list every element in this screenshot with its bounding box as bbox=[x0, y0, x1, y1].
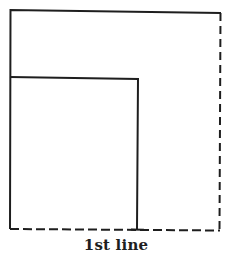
bottom-dashed-line bbox=[10, 229, 220, 231]
diagram-canvas bbox=[0, 0, 232, 261]
inner-box-solid-edges bbox=[10, 77, 138, 229]
outer-box-right-dashed-edge bbox=[220, 13, 221, 230]
outer-box-solid-edges bbox=[10, 10, 221, 229]
first-line-caption: 1st line bbox=[0, 236, 232, 254]
